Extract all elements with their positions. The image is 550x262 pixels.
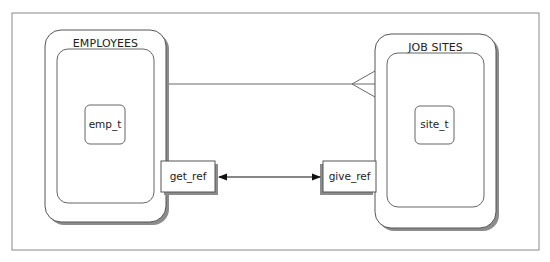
diagram-canvas: EMPLOYEES emp_t JOB SITES site_t get_ref… — [0, 0, 550, 262]
type-label: emp_t — [89, 118, 122, 131]
entity-employees[interactable]: EMPLOYEES emp_t — [45, 30, 169, 225]
method-get-ref[interactable]: get_ref — [161, 161, 218, 195]
entity-title: JOB SITES — [407, 41, 463, 54]
type-node-emp-t[interactable]: emp_t — [85, 105, 125, 144]
method-label: give_ref — [329, 170, 371, 183]
entity-title: EMPLOYEES — [73, 37, 138, 50]
method-give-ref[interactable]: give_ref — [320, 161, 376, 195]
type-label: site_t — [420, 118, 448, 131]
type-node-site-t[interactable]: site_t — [415, 106, 454, 144]
entity-job-sites[interactable]: JOB SITES site_t — [375, 34, 499, 231]
method-label: get_ref — [170, 170, 207, 183]
